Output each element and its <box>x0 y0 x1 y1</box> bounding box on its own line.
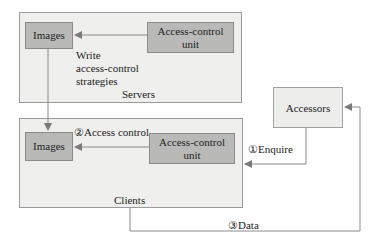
enquire-arrow <box>245 128 306 164</box>
data-arrow <box>130 107 360 231</box>
connector-lines <box>0 0 377 244</box>
